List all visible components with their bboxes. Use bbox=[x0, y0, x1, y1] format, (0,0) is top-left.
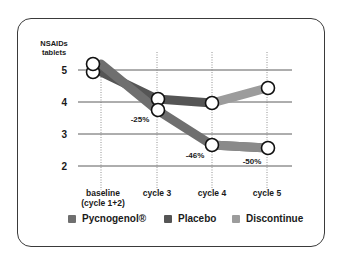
annotation-46: -46% bbox=[186, 151, 205, 160]
marker-discontinue-cycle5 bbox=[262, 82, 275, 95]
series-pycnogenol-line bbox=[101, 64, 267, 148]
y-axis-label-2: tablets bbox=[42, 48, 66, 57]
marker-pycnogenol-cycle5 bbox=[262, 142, 275, 155]
marker-pycnogenol-cycle4 bbox=[206, 139, 219, 152]
y-tick-3: 3 bbox=[61, 129, 67, 140]
legend-swatch-discontinue bbox=[232, 215, 240, 223]
series-discontinue-line bbox=[212, 88, 267, 103]
legend-item-pycnogenol: Pycnogenol® bbox=[68, 213, 146, 224]
legend-item-placebo: Placebo bbox=[164, 213, 216, 224]
x-tick-cycle4: cycle 4 bbox=[198, 188, 227, 198]
legend-swatch-pycnogenol bbox=[68, 215, 76, 223]
chart-legend: Pycnogenol® Placebo Discontinue bbox=[64, 213, 304, 229]
marker-placebo-cycle4 bbox=[206, 97, 219, 110]
y-tick-2: 2 bbox=[61, 161, 67, 172]
legend-label-pycnogenol: Pycnogenol® bbox=[82, 213, 146, 224]
y-tick-5: 5 bbox=[61, 65, 67, 76]
category-gridlines bbox=[101, 52, 267, 190]
y-axis-label: NSAIDs bbox=[40, 39, 68, 48]
annotation-25: -25% bbox=[131, 115, 150, 124]
series-pycnogenol-tail bbox=[212, 145, 267, 148]
legend-label-placebo: Placebo bbox=[178, 213, 216, 224]
legend-item-discontinue: Discontinue bbox=[232, 213, 303, 224]
legend-swatch-placebo bbox=[164, 215, 172, 223]
annotation-50: -50% bbox=[243, 157, 262, 166]
x-tick-baseline-sub: (cycle 1+2) bbox=[81, 198, 125, 208]
marker-pycnogenol-baseline bbox=[87, 58, 100, 71]
legend-label-discontinue: Discontinue bbox=[246, 213, 303, 224]
x-tick-cycle3: cycle 3 bbox=[143, 188, 172, 198]
x-tick-cycle5: cycle 5 bbox=[253, 188, 282, 198]
marker-pycnogenol-cycle3 bbox=[152, 104, 165, 117]
x-tick-baseline: baseline bbox=[86, 188, 120, 198]
y-tick-4: 4 bbox=[61, 97, 67, 108]
